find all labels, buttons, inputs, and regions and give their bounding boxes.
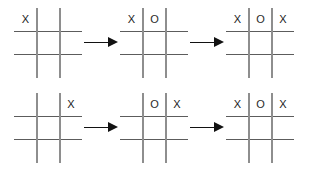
arrow-right-icon: [82, 118, 120, 138]
cell-r1c2[interactable]: [272, 116, 294, 139]
board-cells: X: [14, 93, 82, 163]
cell-r1c2[interactable]: [166, 31, 188, 54]
board-cells: X O X: [226, 8, 294, 78]
cell-r0c2[interactable]: X: [60, 93, 82, 116]
cell-r1c1[interactable]: [143, 116, 166, 139]
tic-tac-toe-sequence-diagram: X X O: [0, 0, 320, 170]
board-bottom-step-3[interactable]: X O X: [226, 93, 294, 163]
board-cells: X O X: [226, 93, 294, 163]
arrow-shaft: [84, 127, 110, 128]
cell-r0c2[interactable]: X: [272, 8, 294, 31]
cell-r2c1[interactable]: [143, 54, 166, 78]
cell-r1c0[interactable]: [120, 116, 143, 139]
cell-r1c0[interactable]: [226, 31, 249, 54]
cell-r2c1[interactable]: [143, 139, 166, 163]
cell-r2c2[interactable]: [60, 54, 82, 78]
cell-r0c0[interactable]: X: [120, 8, 143, 31]
board-cells: O X: [120, 93, 188, 163]
arrow-shaft: [190, 127, 216, 128]
cell-r2c0[interactable]: [120, 54, 143, 78]
arrow-head: [108, 37, 118, 47]
arrow-head: [214, 122, 224, 132]
cell-r0c1[interactable]: O: [249, 93, 272, 116]
board-top-step-3[interactable]: X O X: [226, 8, 294, 78]
board-cells: X O: [120, 8, 188, 78]
sequence-row-top: X X O: [0, 0, 320, 85]
arrow-head: [108, 122, 118, 132]
cell-r0c1[interactable]: [37, 93, 60, 116]
cell-r1c1[interactable]: [249, 116, 272, 139]
cell-r2c0[interactable]: [14, 139, 37, 163]
cell-r0c2[interactable]: X: [166, 93, 188, 116]
cell-r2c1[interactable]: [37, 139, 60, 163]
board-top-step-1[interactable]: X: [14, 8, 82, 78]
cell-r2c1[interactable]: [249, 54, 272, 78]
cell-r2c0[interactable]: [14, 54, 37, 78]
cell-r0c1[interactable]: O: [249, 8, 272, 31]
arrow-shaft: [190, 42, 216, 43]
board-bottom-step-2[interactable]: O X: [120, 93, 188, 163]
board-cells: X: [14, 8, 82, 78]
cell-r1c2[interactable]: [166, 116, 188, 139]
cell-r0c1[interactable]: O: [143, 93, 166, 116]
cell-r0c0[interactable]: X: [226, 8, 249, 31]
cell-r1c2[interactable]: [272, 31, 294, 54]
cell-r0c2[interactable]: X: [272, 93, 294, 116]
arrow-head: [214, 37, 224, 47]
cell-r2c2[interactable]: [272, 54, 294, 78]
cell-r2c1[interactable]: [37, 54, 60, 78]
cell-r0c2[interactable]: [166, 8, 188, 31]
cell-r1c1[interactable]: [249, 31, 272, 54]
board-bottom-step-1[interactable]: X: [14, 93, 82, 163]
arrow-right-icon: [82, 33, 120, 53]
cell-r1c2[interactable]: [60, 31, 82, 54]
cell-r1c0[interactable]: [226, 116, 249, 139]
cell-r1c1[interactable]: [37, 116, 60, 139]
cell-r0c0[interactable]: X: [226, 93, 249, 116]
arrow-right-icon: [188, 118, 226, 138]
cell-r0c2[interactable]: [60, 8, 82, 31]
cell-r1c2[interactable]: [60, 116, 82, 139]
cell-r0c0[interactable]: [120, 93, 143, 116]
cell-r1c0[interactable]: [14, 116, 37, 139]
cell-r2c0[interactable]: [226, 54, 249, 78]
cell-r2c0[interactable]: [226, 139, 249, 163]
cell-r1c0[interactable]: [14, 31, 37, 54]
cell-r2c2[interactable]: [166, 139, 188, 163]
cell-r2c2[interactable]: [272, 139, 294, 163]
cell-r1c1[interactable]: [143, 31, 166, 54]
arrow-shaft: [84, 42, 110, 43]
cell-r2c1[interactable]: [249, 139, 272, 163]
arrow-right-icon: [188, 33, 226, 53]
cell-r2c2[interactable]: [166, 54, 188, 78]
cell-r0c1[interactable]: [37, 8, 60, 31]
cell-r2c0[interactable]: [120, 139, 143, 163]
sequence-row-bottom: X O X: [0, 85, 320, 170]
board-top-step-2[interactable]: X O: [120, 8, 188, 78]
cell-r0c0[interactable]: [14, 93, 37, 116]
cell-r0c1[interactable]: O: [143, 8, 166, 31]
cell-r1c1[interactable]: [37, 31, 60, 54]
cell-r2c2[interactable]: [60, 139, 82, 163]
cell-r1c0[interactable]: [120, 31, 143, 54]
cell-r0c0[interactable]: X: [14, 8, 37, 31]
